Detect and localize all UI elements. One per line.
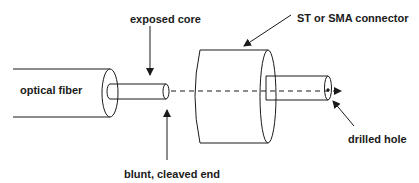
drilled-hole-arrow [333, 101, 354, 126]
connector-body-shape [195, 50, 276, 143]
exposed-core-label: exposed core [130, 13, 201, 25]
drilled-hole-label: drilled hole [348, 133, 407, 145]
cleaved-end-label: blunt, cleaved end [124, 168, 220, 180]
optical-fiber-label: optical fiber [20, 84, 83, 96]
fiber-connector-diagram: optical fiber exposed core ST or SMA con… [0, 0, 419, 183]
connector-label: ST or SMA connector [297, 12, 409, 24]
connector-arrow [244, 15, 291, 46]
